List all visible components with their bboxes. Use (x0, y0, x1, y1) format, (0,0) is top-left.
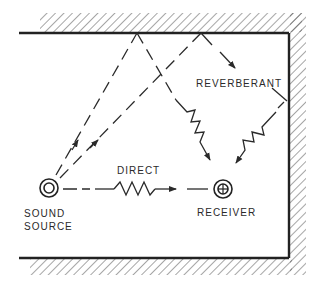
wall-hatching (30, 13, 306, 275)
reverberant-ray-2 (60, 33, 287, 178)
sound-source-label-line2: SOURCE (24, 221, 73, 233)
direct-label: DIRECT (117, 165, 160, 177)
acoustic-diagram: REVERBERANT DIRECT SOUND SOURCE RECEIVER (0, 0, 321, 285)
reverberant-label: REVERBERANT (196, 78, 282, 90)
receiver-icon (214, 180, 232, 198)
sound-source-icon (40, 179, 58, 197)
diagram-graphic (0, 0, 321, 285)
direct-path (63, 182, 208, 195)
receiver-label: RECEIVER (197, 207, 256, 219)
reverberant-ray-1 (56, 33, 210, 175)
sound-source-label-line1: SOUND (24, 208, 65, 220)
